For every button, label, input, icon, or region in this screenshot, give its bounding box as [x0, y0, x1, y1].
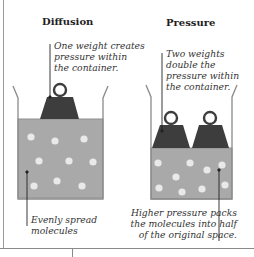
molecule-icon — [27, 133, 34, 140]
diagram-illustration — [0, 0, 254, 257]
weight-icon — [192, 112, 229, 148]
molecule-icon — [198, 185, 205, 192]
molecule-icon — [221, 181, 228, 188]
molecule-icon — [78, 182, 85, 189]
molecule-icon — [172, 173, 179, 180]
molecule-icon — [51, 137, 58, 144]
molecule-icon — [80, 135, 87, 142]
molecule-icon — [30, 182, 37, 189]
molecule-icon — [186, 159, 193, 166]
pressure-container — [146, 85, 237, 199]
weight-icon — [40, 84, 79, 119]
molecule-icon — [89, 158, 96, 165]
molecule-icon — [53, 177, 60, 184]
molecule-icon — [35, 157, 42, 164]
molecule-icon — [155, 184, 162, 191]
molecule-icon — [154, 159, 161, 166]
weight-icon — [152, 112, 190, 148]
molecule-icon — [218, 161, 225, 168]
molecule-icon — [65, 157, 72, 164]
molecule-icon — [178, 188, 185, 195]
molecule-icon — [203, 166, 210, 173]
pressure-liquid — [151, 148, 232, 199]
